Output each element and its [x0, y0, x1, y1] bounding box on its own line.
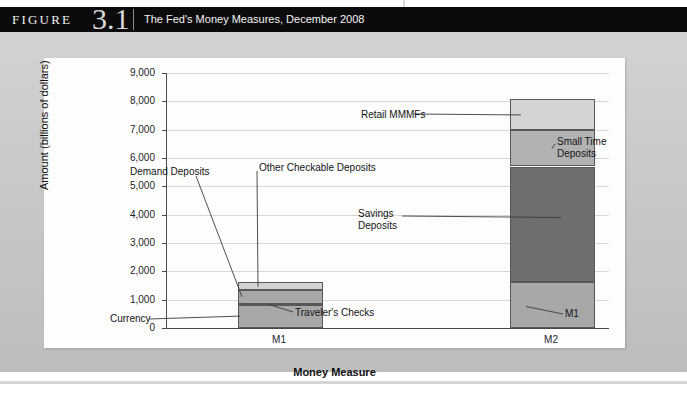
- y-axis-tick: [162, 101, 167, 102]
- x-axis-tick-label-m1: M1: [249, 334, 309, 345]
- y-axis-tick: [162, 243, 167, 244]
- header-divider: [133, 9, 134, 30]
- y-axis-tick: [162, 130, 167, 131]
- y-axis-tick-label: 2,000: [99, 265, 155, 276]
- annotation-demand-deposits: Demand Deposits: [130, 166, 209, 178]
- y-axis-tick: [162, 186, 167, 187]
- annotation-small-time-line1: Small Time: [557, 136, 606, 147]
- y-axis-tick-label: 6,000: [99, 152, 155, 163]
- y-axis-tick-label: 3,000: [99, 237, 155, 248]
- annotation-m1-callout: M1: [565, 308, 579, 320]
- bar-m1[interactable]: [238, 73, 323, 328]
- x-axis-title: Money Measure: [44, 366, 625, 378]
- y-axis-tick-label: 5,000: [99, 180, 155, 191]
- y-axis-tick-label: 1,000: [99, 294, 155, 305]
- y-axis-tick: [162, 73, 167, 74]
- y-axis-tick: [162, 271, 167, 272]
- y-axis-tick: [162, 300, 167, 301]
- annotation-other-checkable-deposits: Other Checkable Deposits: [259, 162, 376, 174]
- page-bottom-rule: [0, 381, 687, 384]
- annotation-travelers-checks: Traveler's Checks: [295, 307, 374, 319]
- bar-segment-demand-deposits[interactable]: [238, 290, 323, 304]
- figure-caption: The Fed's Money Measures, December 2008: [144, 13, 364, 25]
- bar-segment-retail-mmmfs[interactable]: [510, 99, 595, 130]
- bar-m2[interactable]: [510, 73, 595, 328]
- bar-segment-savings-deposits[interactable]: [510, 167, 595, 283]
- figure-number: 3.1: [92, 2, 130, 36]
- bar-segment-traveler-s-checks[interactable]: [238, 304, 323, 306]
- annotation-currency: Currency: [110, 313, 151, 325]
- y-axis-tick-label: 8,000: [99, 95, 155, 106]
- chart-panel: Amount (billions of dollars) 01,0002,000…: [44, 58, 625, 348]
- y-axis-tick: [162, 328, 167, 329]
- y-axis-tick-label: 9,000: [99, 67, 155, 78]
- annotation-savings-line2: Deposits: [358, 220, 397, 231]
- annotation-savings-deposits: Savings Deposits: [358, 208, 428, 232]
- y-axis-tick-label: 4,000: [99, 209, 155, 220]
- annotation-savings-line1: Savings: [358, 208, 394, 219]
- figure-header-band: FIGURE 3.1 The Fed's Money Measures, Dec…: [0, 7, 687, 32]
- x-axis-tick-label-m2: M2: [521, 334, 581, 345]
- bar-segment-m1[interactable]: [510, 282, 595, 328]
- annotation-retail-mmmfs: Retail MMMFs: [361, 109, 425, 121]
- y-axis-tick-label: 7,000: [99, 124, 155, 135]
- annotation-small-time-deposits: Small Time Deposits: [557, 136, 627, 160]
- figure-page: FIGURE 3.1 The Fed's Money Measures, Dec…: [0, 0, 687, 397]
- header-top-whitespace: [405, 0, 687, 7]
- y-axis-title: Amount (billions of dollars): [38, 60, 50, 190]
- bar-segment-other-checkable-deposits[interactable]: [238, 282, 323, 290]
- annotation-small-time-line2: Deposits: [557, 148, 596, 159]
- y-axis-tick: [162, 215, 167, 216]
- figure-word: FIGURE: [12, 12, 72, 28]
- y-axis-tick: [162, 158, 167, 159]
